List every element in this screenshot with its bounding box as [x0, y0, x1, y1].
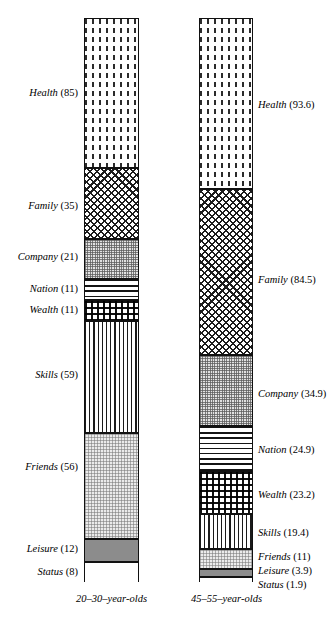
segment-friends — [85, 433, 138, 539]
segment-skills — [85, 321, 138, 433]
label-leisure-left: Leisure (12) — [27, 543, 78, 555]
label-skills-right: Skills (19.4) — [258, 527, 309, 539]
label-value: (11) — [61, 304, 78, 315]
label-name: Friends — [25, 461, 58, 472]
label-value: (11) — [61, 283, 78, 294]
segment-family — [85, 168, 138, 239]
segment-leisure — [85, 539, 138, 562]
label-name: Skills — [35, 369, 58, 380]
label-value: (59) — [61, 369, 79, 380]
label-nation-right: Nation (24.9) — [258, 444, 315, 456]
label-friends-left: Friends (56) — [25, 461, 78, 473]
segment-wealth — [200, 471, 252, 514]
bar-45-55-year-olds — [199, 18, 253, 582]
label-value: (24.9) — [289, 444, 314, 455]
label-name: Leisure — [27, 543, 58, 554]
label-value: (21) — [61, 251, 79, 262]
label-value: (23.2) — [289, 489, 314, 500]
label-name: Friends — [258, 551, 291, 562]
label-family-left: Family (35) — [28, 200, 78, 212]
label-name: Status — [258, 579, 284, 590]
label-value: (56) — [61, 461, 79, 472]
caption-bar-left: 20–30–year-olds — [46, 593, 177, 604]
label-value: (1.9) — [286, 579, 306, 590]
bar-20-30-year-olds — [84, 18, 139, 582]
label-name: Family — [28, 200, 58, 211]
segment-family — [200, 189, 252, 355]
label-value: (34.9) — [301, 388, 326, 399]
label-nation-left: Nation (11) — [30, 283, 78, 295]
label-skills-left: Skills (59) — [35, 369, 78, 381]
label-wealth-right: Wealth (23.2) — [258, 489, 315, 501]
segment-health — [200, 19, 252, 189]
label-company-left: Company (21) — [18, 251, 78, 263]
label-value: (35) — [61, 200, 79, 211]
label-leisure-right: Leisure (3.9) — [258, 565, 312, 577]
label-name: Skills — [258, 527, 281, 538]
label-status-left: Status (8) — [37, 566, 78, 578]
label-name: Health — [258, 99, 287, 110]
segment-company — [200, 355, 252, 426]
segment-leisure — [200, 569, 252, 577]
label-value: (11) — [293, 551, 310, 562]
label-name: Family — [258, 274, 288, 285]
segment-health — [85, 19, 138, 168]
label-health-left: Health (85) — [29, 87, 78, 99]
segment-skills — [200, 514, 252, 549]
label-name: Status — [37, 566, 63, 577]
label-value: (12) — [61, 543, 79, 554]
segment-nation — [85, 279, 138, 300]
label-name: Company — [18, 251, 58, 262]
label-name: Wealth — [258, 489, 287, 500]
label-value: (84.5) — [290, 274, 315, 285]
label-value: (3.9) — [292, 565, 312, 576]
caption-bar-right: 45–55–year-olds — [161, 593, 292, 604]
stacked-bar-chart: Health (85) Family (35) Company (21) Nat… — [0, 0, 334, 622]
label-name: Nation — [30, 283, 59, 294]
label-value: (85) — [61, 87, 79, 98]
segment-status — [85, 562, 138, 583]
label-name: Leisure — [258, 565, 289, 576]
label-wealth-left: Wealth (11) — [29, 304, 78, 316]
label-name: Nation — [258, 444, 287, 455]
label-status-right: Status (1.9) — [258, 579, 306, 591]
label-friends-right: Friends (11) — [258, 551, 310, 563]
label-family-right: Family (84.5) — [258, 274, 316, 286]
segment-wealth — [85, 300, 138, 321]
segment-status — [200, 577, 252, 583]
label-company-right: Company (34.9) — [258, 388, 326, 400]
label-value: (19.4) — [283, 527, 308, 538]
segment-friends — [200, 549, 252, 569]
label-name: Wealth — [29, 304, 58, 315]
label-health-right: Health (93.6) — [258, 99, 315, 111]
label-name: Health — [29, 87, 58, 98]
label-value: (93.6) — [289, 99, 314, 110]
label-value: (8) — [66, 566, 78, 577]
segment-nation — [200, 426, 252, 471]
label-name: Company — [258, 388, 298, 399]
segment-company — [85, 239, 138, 279]
